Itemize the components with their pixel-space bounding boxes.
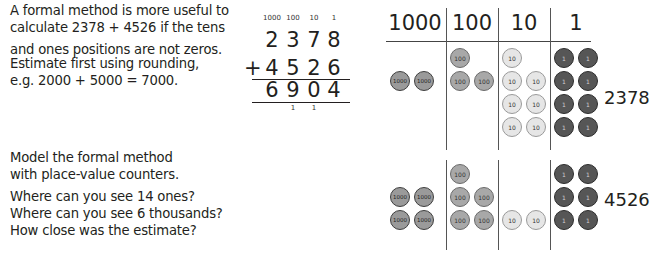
model-line: Model the formal method bbox=[10, 149, 179, 166]
counter-1: 1 bbox=[578, 48, 598, 68]
addend1-digit: 2 bbox=[262, 28, 282, 52]
addend2-digit: 5 bbox=[283, 56, 303, 80]
counter-1000: 1000 bbox=[390, 187, 410, 207]
counter-100: 100 bbox=[450, 48, 470, 68]
place-header: 1000 bbox=[262, 14, 282, 22]
counter-10: 10 bbox=[502, 48, 522, 68]
model-line: with place-value counters. bbox=[10, 166, 179, 183]
plus-operator: + bbox=[244, 56, 262, 80]
question-line: Where can you see 6 thousands? bbox=[10, 205, 223, 222]
counter-1: 1 bbox=[578, 210, 598, 230]
counter-1: 1 bbox=[578, 164, 598, 184]
estimate-paragraph: Estimate first using rounding, e.g. 2000… bbox=[10, 55, 199, 89]
counter-10: 10 bbox=[502, 210, 522, 230]
counter-10: 10 bbox=[502, 94, 522, 114]
sum-digit: 4 bbox=[324, 78, 344, 102]
intro-line: calculate 2378 + 4526 if the tens bbox=[10, 19, 229, 36]
counter-100: 100 bbox=[450, 71, 470, 91]
counter-1: 1 bbox=[578, 187, 598, 207]
intro-paragraph: A formal method is more useful to calcul… bbox=[10, 2, 229, 36]
column-divider bbox=[550, 160, 551, 250]
counter-100: 100 bbox=[450, 187, 470, 207]
counter-1: 1 bbox=[554, 210, 574, 230]
model-paragraph: Model the formal method with place-value… bbox=[10, 149, 179, 183]
addend1-digit: 3 bbox=[283, 28, 303, 52]
row-number-4526: 4526 bbox=[604, 189, 650, 210]
counter-1: 1 bbox=[578, 71, 598, 91]
column-header-100: 100 bbox=[446, 11, 498, 35]
counter-1: 1 bbox=[554, 164, 574, 184]
addend2-digit: 2 bbox=[304, 56, 324, 80]
sum-digit: 6 bbox=[262, 78, 282, 102]
counter-10: 10 bbox=[502, 71, 522, 91]
questions-paragraph: Where can you see 14 ones? Where can you… bbox=[10, 188, 223, 239]
counter-1000: 1000 bbox=[390, 71, 410, 91]
addend1-digit: 7 bbox=[304, 28, 324, 52]
column-divider bbox=[498, 8, 499, 150]
counter-100: 100 bbox=[450, 210, 470, 230]
addend2-digit: 6 bbox=[324, 56, 344, 80]
carry-digit: 1 bbox=[304, 104, 324, 112]
counter-1: 1 bbox=[554, 187, 574, 207]
counter-1: 1 bbox=[554, 48, 574, 68]
estimate-line: e.g. 2000 + 5000 = 7000. bbox=[10, 72, 199, 89]
counter-10: 10 bbox=[502, 117, 522, 137]
counter-1: 1 bbox=[554, 94, 574, 114]
addend1-digit: 8 bbox=[324, 28, 344, 52]
counter-1000: 1000 bbox=[414, 71, 434, 91]
counter-10: 10 bbox=[526, 210, 546, 230]
sum-rule-bottom bbox=[252, 102, 350, 103]
counter-1: 1 bbox=[554, 117, 574, 137]
place-value-chart: 1000 100 10 1 2378 4526 1000100010010010… bbox=[386, 0, 586, 260]
place-header: 100 bbox=[283, 14, 303, 22]
question-line: Where can you see 14 ones? bbox=[10, 188, 223, 205]
column-addition: 1000 100 10 1 2 3 7 8 + 4 5 2 6 6 9 0 4 … bbox=[262, 0, 362, 120]
counter-1: 1 bbox=[554, 71, 574, 91]
column-divider bbox=[446, 160, 447, 250]
counter-100: 100 bbox=[450, 164, 470, 184]
counter-1000: 1000 bbox=[414, 210, 434, 230]
addend2-digit: 4 bbox=[262, 56, 282, 80]
counter-100: 100 bbox=[474, 210, 494, 230]
counter-10: 10 bbox=[526, 94, 546, 114]
column-header-1000: 1000 bbox=[386, 11, 444, 35]
row-number-2378: 2378 bbox=[604, 87, 650, 108]
column-divider bbox=[550, 8, 551, 150]
counter-1000: 1000 bbox=[414, 187, 434, 207]
question-line: How close was the estimate? bbox=[10, 222, 223, 239]
column-divider bbox=[446, 8, 447, 150]
sum-digit: 0 bbox=[304, 78, 324, 102]
place-header: 1 bbox=[324, 14, 344, 22]
column-header-10: 10 bbox=[498, 11, 550, 35]
intro-line: A formal method is more useful to bbox=[10, 2, 229, 19]
place-header: 10 bbox=[304, 14, 324, 22]
column-header-1: 1 bbox=[550, 11, 602, 35]
counter-10: 10 bbox=[526, 71, 546, 91]
counter-100: 100 bbox=[474, 71, 494, 91]
counter-1: 1 bbox=[578, 94, 598, 114]
counter-1: 1 bbox=[578, 117, 598, 137]
sum-digit: 9 bbox=[283, 78, 303, 102]
counter-1000: 1000 bbox=[390, 210, 410, 230]
carry-digit: 1 bbox=[283, 104, 303, 112]
estimate-line: Estimate first using rounding, bbox=[10, 55, 199, 72]
counter-10: 10 bbox=[526, 117, 546, 137]
header-divider bbox=[386, 41, 591, 42]
column-divider bbox=[498, 160, 499, 250]
counter-100: 100 bbox=[474, 187, 494, 207]
